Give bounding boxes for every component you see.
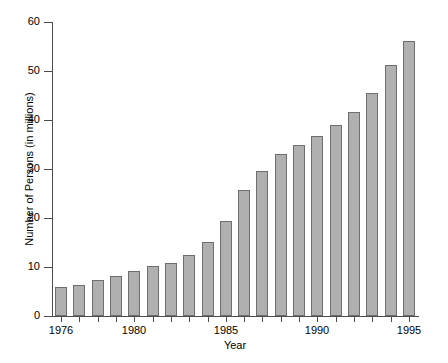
bar bbox=[183, 255, 195, 316]
x-tick-mark bbox=[208, 317, 209, 322]
x-tick-mark bbox=[299, 317, 300, 322]
bar bbox=[92, 280, 104, 316]
y-tick-mark bbox=[44, 169, 52, 170]
x-tick-label: 1985 bbox=[214, 324, 238, 336]
y-tick-label: 10 bbox=[0, 260, 40, 272]
bar bbox=[275, 154, 287, 316]
y-tick-mark bbox=[44, 22, 52, 23]
y-tick-mark bbox=[44, 267, 52, 268]
x-tick-mark bbox=[409, 317, 410, 322]
bar bbox=[110, 276, 122, 316]
y-tick-label: 40 bbox=[0, 113, 40, 125]
bar bbox=[311, 136, 323, 316]
y-tick-label: 0 bbox=[0, 309, 40, 321]
bar bbox=[220, 221, 232, 316]
x-tick-mark bbox=[226, 317, 227, 322]
y-tick-mark bbox=[44, 120, 52, 121]
bar bbox=[348, 112, 360, 316]
y-tick-mark bbox=[44, 71, 52, 72]
x-tick-mark bbox=[189, 317, 190, 322]
x-tick-label: 1976 bbox=[49, 324, 73, 336]
bar bbox=[55, 287, 67, 316]
y-tick-label: 30 bbox=[0, 162, 40, 174]
x-tick-label: 1995 bbox=[397, 324, 421, 336]
x-tick-mark bbox=[244, 317, 245, 322]
bar bbox=[330, 125, 342, 316]
bar bbox=[403, 41, 415, 316]
x-tick-mark bbox=[171, 317, 172, 322]
x-tick-mark bbox=[372, 317, 373, 322]
x-tick-mark bbox=[262, 317, 263, 322]
y-tick-label: 20 bbox=[0, 211, 40, 223]
bar bbox=[202, 242, 214, 316]
bar bbox=[385, 65, 397, 316]
bar bbox=[165, 263, 177, 316]
x-tick-mark bbox=[317, 317, 318, 322]
x-tick-mark bbox=[79, 317, 80, 322]
plot-area bbox=[52, 22, 418, 316]
bar bbox=[147, 266, 159, 316]
y-tick-mark bbox=[44, 316, 52, 317]
bar bbox=[128, 271, 140, 316]
bar bbox=[238, 190, 250, 316]
bar bbox=[293, 145, 305, 317]
x-axis-line bbox=[52, 316, 419, 317]
x-tick-mark bbox=[354, 317, 355, 322]
x-tick-label: 1990 bbox=[305, 324, 329, 336]
x-tick-mark bbox=[61, 317, 62, 322]
x-tick-mark bbox=[153, 317, 154, 322]
x-axis-title: Year bbox=[52, 339, 418, 351]
x-tick-label: 1980 bbox=[122, 324, 146, 336]
y-tick-mark bbox=[44, 218, 52, 219]
x-tick-mark bbox=[336, 317, 337, 322]
bar-chart-figure: Number of Persons (in millions) 01020304… bbox=[0, 0, 448, 363]
x-tick-mark bbox=[281, 317, 282, 322]
x-tick-mark bbox=[98, 317, 99, 322]
y-tick-label: 50 bbox=[0, 64, 40, 76]
bar bbox=[73, 285, 85, 316]
y-tick-label: 60 bbox=[0, 15, 40, 27]
bar bbox=[256, 171, 268, 316]
x-tick-mark bbox=[391, 317, 392, 322]
x-tick-mark bbox=[134, 317, 135, 322]
x-tick-mark bbox=[116, 317, 117, 322]
bar bbox=[366, 93, 378, 316]
